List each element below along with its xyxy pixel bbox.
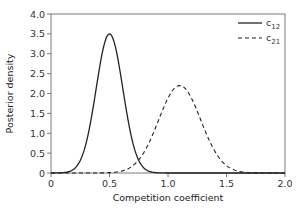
x-tick-label: 1.5 bbox=[219, 178, 234, 189]
y-tick-label: 3.0 bbox=[30, 48, 45, 59]
y-tick-label: 0 bbox=[39, 168, 45, 179]
y-tick-label: 1.5 bbox=[30, 108, 45, 119]
x-axis-title: Competition coefficient bbox=[113, 192, 224, 203]
y-axis: 00.51.01.52.02.53.03.54.0 bbox=[30, 9, 51, 179]
y-axis-title: Posterior density bbox=[4, 53, 15, 133]
y-tick-label: 3.5 bbox=[30, 28, 45, 39]
y-tick-label: 4.0 bbox=[30, 9, 45, 20]
legend-label-c21: c21 bbox=[266, 32, 280, 46]
x-tick-label: 2.0 bbox=[277, 178, 292, 189]
curve-c12 bbox=[51, 34, 285, 173]
y-tick-label: 1.0 bbox=[30, 128, 45, 139]
y-tick-label: 0.5 bbox=[30, 148, 45, 159]
plot-border bbox=[51, 14, 285, 173]
curve-c21 bbox=[51, 86, 285, 173]
curves bbox=[51, 34, 285, 173]
x-axis: 00.51.01.52.0 bbox=[48, 173, 293, 189]
legend: c12c21 bbox=[238, 17, 280, 46]
x-tick-label: 1.0 bbox=[160, 178, 175, 189]
legend-label-c12: c12 bbox=[266, 17, 280, 31]
plot-frame bbox=[51, 14, 285, 173]
y-tick-label: 2.5 bbox=[30, 68, 45, 79]
x-tick-label: 0.5 bbox=[102, 178, 117, 189]
x-tick-label: 0 bbox=[48, 178, 54, 189]
y-tick-label: 2.0 bbox=[30, 88, 45, 99]
posterior-density-chart: 00.51.01.52.02.53.03.54.0 00.51.01.52.0 … bbox=[0, 0, 297, 212]
